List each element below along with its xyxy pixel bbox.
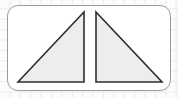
shape-canvas: [0, 0, 179, 98]
right-triangle[interactable]: [96, 12, 162, 82]
left-triangle[interactable]: [18, 12, 84, 82]
shapes-layer: [0, 0, 179, 98]
triangles-svg: [0, 0, 179, 98]
